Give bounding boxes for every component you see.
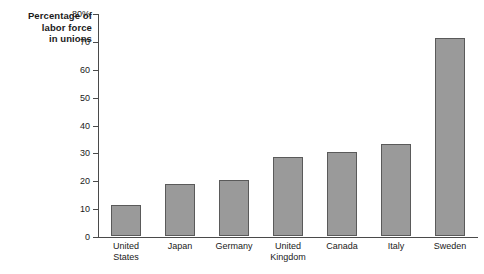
- y-tick-mark: [93, 237, 98, 238]
- y-tick-mark: [93, 70, 98, 71]
- y-axis-line: [98, 14, 99, 238]
- y-tick-label: 80%: [72, 9, 90, 19]
- y-tick-label: 30: [80, 148, 90, 158]
- x-label-line: Sweden: [417, 241, 483, 252]
- y-tick-label: 50: [80, 93, 90, 103]
- union-membership-bar-chart: Percentage oflabor forcein unions 010203…: [0, 0, 484, 274]
- y-tick-mark: [93, 42, 98, 43]
- bar-germany: [219, 180, 249, 236]
- x-label-line: States: [93, 252, 159, 263]
- y-tick-label: 20: [80, 176, 90, 186]
- bar-canada: [327, 152, 357, 236]
- y-tick-mark: [93, 98, 98, 99]
- y-tick-mark: [93, 126, 98, 127]
- x-label-sweden: Sweden: [417, 241, 483, 252]
- y-tick-label: 60: [80, 65, 90, 75]
- y-tick-mark: [93, 153, 98, 154]
- bar-italy: [381, 144, 411, 236]
- y-tick-mark: [93, 209, 98, 210]
- x-axis-line: [98, 237, 478, 238]
- y-tick-mark: [93, 181, 98, 182]
- y-tick-mark: [93, 14, 98, 15]
- plot-area: 01020304050607080% UnitedStatesJapanGerm…: [98, 14, 478, 237]
- bar-sweden: [435, 38, 465, 236]
- bar-united-states: [111, 205, 141, 236]
- y-tick-label: 40: [80, 121, 90, 131]
- x-label-line: Kingdom: [255, 252, 321, 263]
- y-tick-label: 70: [80, 37, 90, 47]
- y-tick-label: 0: [85, 232, 90, 242]
- chart-title-line-1: labor force: [6, 22, 92, 34]
- bar-united-kingdom: [273, 157, 303, 236]
- bar-japan: [165, 184, 195, 236]
- y-tick-label: 10: [80, 204, 90, 214]
